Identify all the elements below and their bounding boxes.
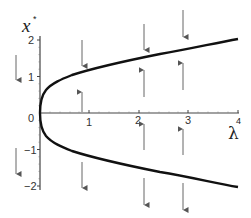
y-tick-label: −1 bbox=[24, 144, 37, 156]
x-tick-label: 2 bbox=[135, 114, 141, 126]
x-tick-label: 3 bbox=[185, 114, 191, 126]
y-axis-label: x bbox=[21, 15, 31, 36]
bifurcation-chart: 2 1 0 −1 −2 x * 1 2 3 λ 4 bbox=[0, 0, 251, 218]
x-axis-label: λ bbox=[228, 123, 239, 143]
y-tick-label: −2 bbox=[24, 180, 37, 192]
x-tick-label: 1 bbox=[86, 116, 92, 128]
y-tick-label: 1 bbox=[28, 71, 34, 83]
x-axis: 1 2 3 λ 4 bbox=[40, 110, 241, 143]
y-axis: 2 1 0 −1 −2 x * bbox=[21, 14, 40, 192]
x-tick-label-4: 4 bbox=[236, 116, 241, 126]
upper-branch-curve bbox=[40, 39, 238, 113]
y-tick-label: 0 bbox=[28, 112, 34, 124]
y-axis-label-superscript: * bbox=[33, 14, 37, 24]
